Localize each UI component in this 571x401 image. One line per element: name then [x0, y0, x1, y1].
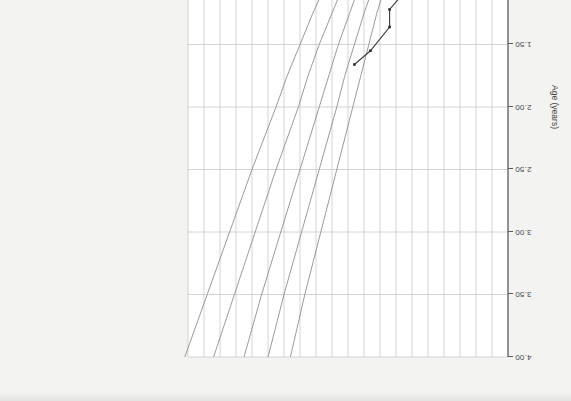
- age-tick: [508, 294, 513, 295]
- age-tick: [508, 169, 513, 170]
- age-tick-label: 2.00: [515, 103, 541, 112]
- age-tick-label: 3.50: [515, 290, 541, 299]
- x-axis-title: Age (years): [550, 85, 560, 129]
- scanned-growth-chart-page: 0.000.501.001.502.002.503.003.504.00 01.…: [0, 0, 571, 401]
- age-tick-label: 3.00: [515, 228, 541, 237]
- age-tick: [508, 231, 513, 232]
- age-tick-label: 4.00: [515, 353, 541, 362]
- age-tick: [508, 106, 513, 107]
- page-edge-shadow: [0, 392, 571, 401]
- patient-data-layer: [188, 0, 508, 357]
- age-tick-label: 1.50: [515, 40, 541, 49]
- age-tick-label: 2.50: [515, 165, 541, 174]
- age-tick: [508, 356, 513, 357]
- plot-area: [188, 0, 508, 357]
- age-tick: [508, 44, 513, 45]
- chart-sheet: 0.000.501.001.502.002.503.003.504.00 01.…: [0, 0, 571, 401]
